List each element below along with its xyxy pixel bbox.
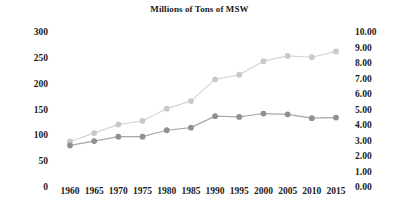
series-line xyxy=(70,51,336,141)
data-point xyxy=(140,134,146,140)
data-point xyxy=(285,111,291,117)
y-right-tick-label: 2.00 xyxy=(355,151,372,161)
data-point xyxy=(236,114,242,120)
data-point xyxy=(188,125,194,131)
y-left-tick-label: 150 xyxy=(34,105,48,115)
series-line-total-msw xyxy=(67,49,339,145)
x-axis: 1960196519701975198019851990199520002005… xyxy=(0,186,399,198)
x-tick-label: 2015 xyxy=(319,186,353,196)
data-point xyxy=(309,115,315,121)
chart-title: Millions of Tons of MSW xyxy=(0,4,399,14)
y-right-tick-label: 4.00 xyxy=(355,120,372,130)
data-point xyxy=(188,98,194,104)
data-point xyxy=(236,72,242,78)
data-point xyxy=(212,113,218,119)
data-point xyxy=(140,118,146,124)
y-left-tick-label: 100 xyxy=(34,130,48,140)
y-left-tick-label: 250 xyxy=(34,53,48,63)
data-point xyxy=(115,134,121,140)
y-right-tick-label: 10.00 xyxy=(355,27,376,37)
data-point xyxy=(261,111,267,117)
data-point xyxy=(333,115,339,121)
data-point xyxy=(91,138,97,144)
chart-container: Millions of Tons of MSW 3002502001501005… xyxy=(0,0,399,212)
y-right-tick-label: 3.00 xyxy=(355,136,372,146)
y-left-tick-label: 50 xyxy=(39,156,49,166)
y-right-tick-label: 8.00 xyxy=(355,58,372,68)
y-left-tick-label: 200 xyxy=(34,79,48,89)
series-line xyxy=(70,114,336,146)
y-right-tick-label: 5.00 xyxy=(355,105,372,115)
data-point xyxy=(309,54,315,60)
data-point xyxy=(261,58,267,64)
data-point xyxy=(164,127,170,133)
data-point xyxy=(115,122,121,128)
y-right-tick-label: 6.00 xyxy=(355,89,372,99)
data-point xyxy=(164,106,170,112)
plot-area xyxy=(0,0,399,212)
data-point xyxy=(91,130,97,136)
y-right-tick-label: 7.00 xyxy=(355,74,372,84)
y-left-tick-label: 300 xyxy=(34,27,48,37)
data-point xyxy=(333,49,339,55)
data-point xyxy=(285,53,291,59)
data-point xyxy=(212,76,218,82)
data-point xyxy=(67,139,73,145)
y-right-tick-label: 9.00 xyxy=(355,43,372,53)
y-right-tick-label: 1.00 xyxy=(355,167,372,177)
data-point xyxy=(67,143,73,149)
series-line-per-capita xyxy=(67,111,339,149)
